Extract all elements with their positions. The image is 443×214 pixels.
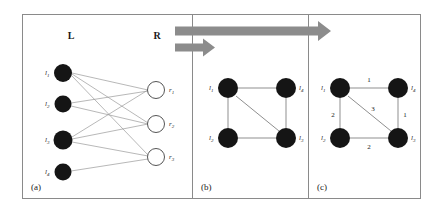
node-r2 xyxy=(148,116,165,133)
set-label-right: R xyxy=(153,30,161,41)
edge-weight-l4-l3: 1 xyxy=(403,111,407,119)
panel-label-b: (b) xyxy=(201,182,212,192)
node-c-l1 xyxy=(330,78,350,98)
node-l4 xyxy=(55,164,72,181)
set-label-left: L xyxy=(68,30,75,41)
node-c-l4 xyxy=(388,78,408,98)
node-l3 xyxy=(54,131,73,150)
bipartite-to-weighted-graph-diagram: L R xyxy=(0,0,443,214)
panel-label-a: (a) xyxy=(31,182,41,192)
node-b-l3 xyxy=(276,128,296,148)
node-c-l3 xyxy=(388,128,408,148)
panel-label-c: (c) xyxy=(317,182,327,192)
node-c-l2 xyxy=(330,128,350,148)
node-b-l2 xyxy=(218,128,238,148)
edge-weight-l2-l3: 2 xyxy=(367,143,371,151)
node-l2 xyxy=(55,96,72,113)
node-b-l1 xyxy=(218,78,238,98)
edge-weight-l1-l3: 3 xyxy=(371,105,375,113)
edge-weight-l1-l4: 1 xyxy=(367,76,371,84)
edge-weight-l1-l2: 2 xyxy=(331,111,335,119)
node-r1 xyxy=(148,82,165,99)
node-b-l4 xyxy=(276,78,296,98)
figure-container: L R xyxy=(0,0,443,214)
node-r3 xyxy=(148,149,165,166)
node-l1 xyxy=(54,64,72,82)
